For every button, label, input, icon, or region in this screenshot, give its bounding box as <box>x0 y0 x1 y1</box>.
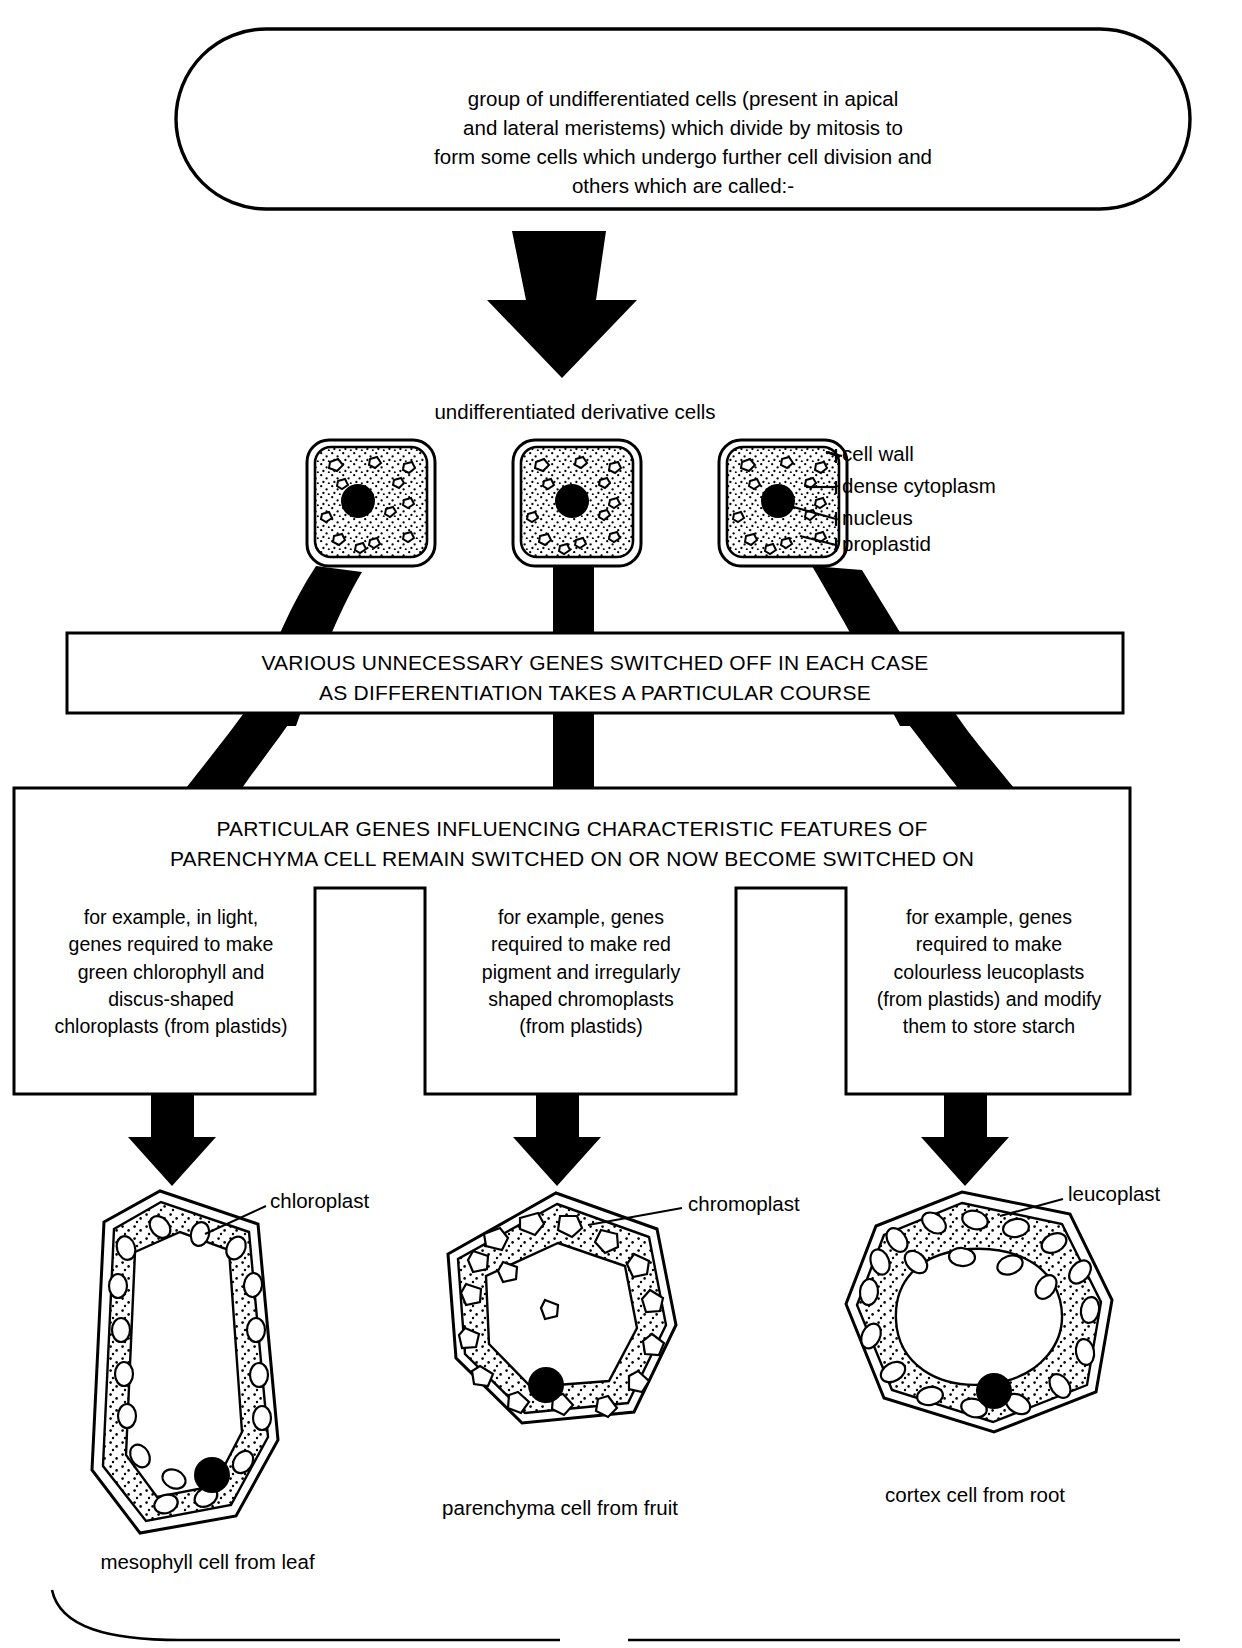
result-arrows <box>128 1094 1009 1186</box>
page-bottom-rules <box>52 1590 1180 1640</box>
band-switched-off-text: VARIOUS UNNECESSARY GENES SWITCHED OFF I… <box>67 648 1123 709</box>
label-proplastid: proplastid <box>842 532 931 556</box>
meristem-cell-b <box>513 440 641 566</box>
nucleus-root <box>976 1373 1012 1409</box>
label-chromoplast: chromoplast <box>688 1192 800 1216</box>
leucoplast-example-text: for example, genes required to make colo… <box>848 904 1130 1040</box>
arrow-to-fruit <box>513 1094 601 1186</box>
mesophyll-cell-drawing <box>92 1191 278 1533</box>
fruit-parenchyma-cell-drawing <box>448 1193 682 1423</box>
meristem-cell-c <box>719 440 847 566</box>
nucleus-fruit <box>528 1367 564 1403</box>
arrow-to-mesophyll <box>128 1094 216 1186</box>
nucleus-mesophyll <box>194 1457 230 1493</box>
label-chloroplast: chloroplast <box>270 1189 369 1213</box>
caption-mesophyll-cell: mesophyll cell from leaf <box>0 1550 415 1574</box>
meristem-cell-a <box>307 440 435 566</box>
diagram-canvas: group of undifferentiated cells (present… <box>0 0 1242 1648</box>
top-capsule-text: group of undifferentiated cells (present… <box>216 84 1150 200</box>
curved-connector-bands-lower <box>186 713 1014 788</box>
caption-root-cortex-cell: cortex cell from root <box>830 1483 1120 1507</box>
label-cell-wall: cell wall <box>842 442 914 466</box>
arrow-to-root <box>921 1094 1009 1186</box>
nucleus-b <box>555 484 589 518</box>
nucleus-c <box>761 484 795 518</box>
band-switched-on-text: PARTICULAR GENES INFLUENCING CHARACTERIS… <box>14 814 1130 875</box>
chloroplast-example-text: for example, in light, genes required to… <box>26 904 316 1040</box>
caption-fruit-parenchyma-cell: parenchyma cell from fruit <box>390 1496 730 1520</box>
chromoplast-example-text: for example, genes required to make red … <box>428 904 734 1040</box>
label-leucoplast: leucoplast <box>1068 1182 1160 1206</box>
nucleus-a <box>341 484 375 518</box>
label-nucleus: nucleus <box>842 506 913 530</box>
root-cortex-cell-drawing <box>846 1192 1112 1432</box>
label-dense-cytoplasm: dense cytoplasm <box>842 474 996 498</box>
main-down-arrow <box>487 231 637 378</box>
derivative-cells-heading: undifferentiated derivative cells <box>0 400 1150 424</box>
